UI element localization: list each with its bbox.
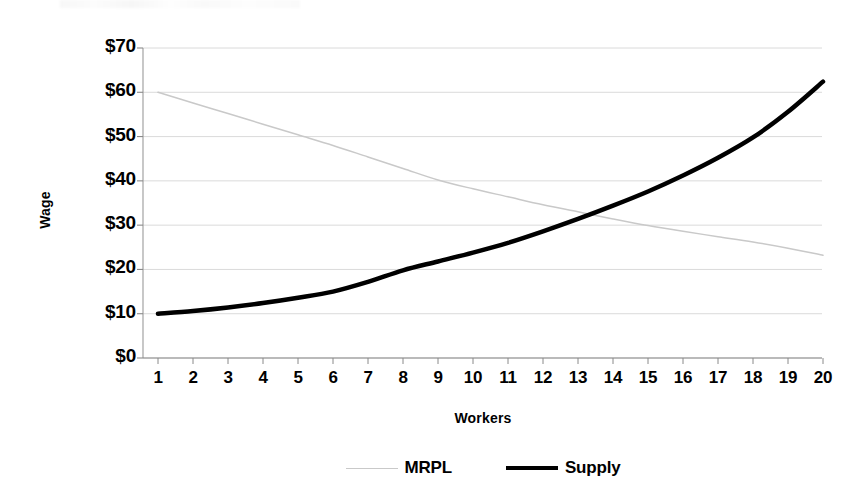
x-axis-tick-label: 17	[709, 368, 727, 388]
chart-container: Wage $0$10$20$30$40$50$60$70 12345678910…	[0, 0, 851, 501]
x-axis-tick-label: 11	[499, 368, 516, 388]
legend-swatch-mrpl-icon	[346, 468, 398, 469]
legend-item-supply[interactable]: Supply	[506, 458, 620, 478]
x-axis-tick-label: 7	[363, 368, 372, 388]
x-axis-tick-label: 12	[534, 368, 552, 388]
x-axis-tick-label: 16	[674, 368, 692, 388]
x-axis-ticks	[158, 358, 823, 364]
x-axis-tick-label: 3	[223, 368, 232, 388]
chart-legend: MRPLSupply	[143, 458, 823, 478]
series-line-supply	[158, 82, 823, 314]
x-axis-tick-label: 14	[604, 368, 622, 388]
legend-item-mrpl[interactable]: MRPL	[346, 458, 452, 478]
axis-lines	[143, 48, 822, 358]
x-axis-tick-label: 18	[744, 368, 762, 388]
x-axis-tick-label: 13	[569, 368, 587, 388]
y-axis-ticks	[137, 48, 143, 358]
x-axis-tick-label: 9	[433, 368, 442, 388]
x-axis-tick-label: 4	[258, 368, 267, 388]
x-axis-tick-label: 19	[779, 368, 797, 388]
series-lines	[158, 82, 823, 314]
x-axis-tick-label: 15	[639, 368, 657, 388]
legend-label-mrpl: MRPL	[405, 458, 452, 478]
x-axis-title-label: Workers	[454, 410, 511, 426]
gridlines	[143, 48, 822, 358]
x-axis-tick-label: 5	[293, 368, 302, 388]
series-line-mrpl	[158, 92, 823, 255]
x-axis-tick-label: 8	[398, 368, 407, 388]
x-axis-tick-label: 2	[188, 368, 197, 388]
legend-swatch-supply-icon	[506, 466, 558, 470]
x-axis-tick-label: 6	[328, 368, 337, 388]
x-axis-tick-labels: 1234567891011121314151617181920	[0, 368, 851, 394]
legend-label-supply: Supply	[565, 458, 620, 478]
x-axis-tick-label: 1	[153, 368, 162, 388]
x-axis-title: Workers	[143, 410, 823, 426]
x-axis-tick-label: 10	[464, 368, 482, 388]
x-axis-tick-label: 20	[814, 368, 832, 388]
